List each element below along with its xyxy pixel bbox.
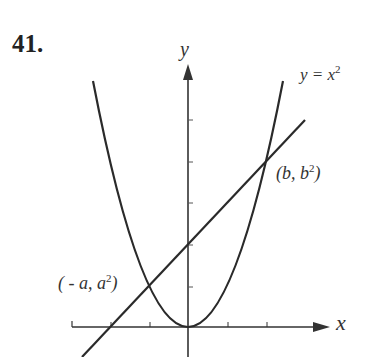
x-axis-label: x [336, 310, 346, 336]
graph-canvas [0, 0, 380, 357]
curve-label-text: y = x [300, 65, 335, 84]
curve-label-exponent: 2 [335, 63, 341, 75]
x-axis-arrow-icon [313, 322, 330, 332]
curve-label: y = x2 [300, 63, 341, 85]
secant-line [82, 120, 305, 357]
point-label-right-close: ) [315, 163, 321, 183]
y-axis [183, 64, 193, 357]
y-axis-arrow-icon [183, 64, 193, 80]
point-label-left-text: ( - a, a [58, 273, 106, 293]
point-label-right: (b, b2) [276, 162, 321, 184]
point-label-left: ( - a, a2) [58, 272, 118, 294]
point-label-right-text: (b, b [276, 163, 309, 183]
diagram-figure: 41. y x y = x2 (b, b2) ( - a, a [0, 0, 380, 357]
point-label-left-close: ) [112, 273, 118, 293]
y-axis-label: y [180, 38, 189, 61]
